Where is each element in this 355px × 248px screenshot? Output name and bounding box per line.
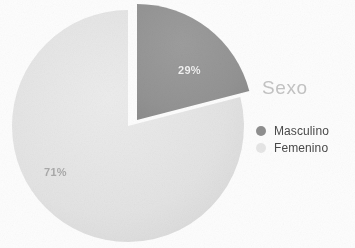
legend-label-femenino: Femenino bbox=[274, 141, 328, 155]
chart-legend: Sexo Masculino Femenino bbox=[256, 78, 355, 157]
legend-label-masculino: Masculino bbox=[274, 124, 329, 138]
pie-chart-plot-area: 29% 71% bbox=[0, 0, 260, 248]
chart-title: Sexo bbox=[262, 78, 355, 97]
legend-swatch-femenino-icon bbox=[256, 143, 266, 153]
legend-item-masculino[interactable]: Masculino bbox=[256, 123, 355, 139]
pie-chart-svg bbox=[0, 0, 260, 248]
pie-chart-figure: 29% 71% Sexo Masculino Femenino bbox=[0, 0, 355, 248]
legend-swatch-masculino-icon bbox=[256, 126, 266, 136]
legend-item-femenino[interactable]: Femenino bbox=[256, 140, 355, 156]
